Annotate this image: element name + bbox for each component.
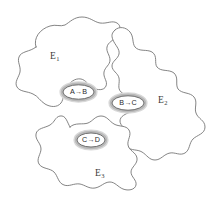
region-label-e2: E2 bbox=[158, 96, 167, 106]
region-label-e3-subscript: 3 bbox=[101, 172, 104, 179]
diagram-svg bbox=[0, 0, 218, 211]
region-label-e1-subscript: 1 bbox=[56, 55, 59, 62]
region-label-e2-subscript: 2 bbox=[164, 99, 167, 106]
node-label-b-to-c: B→C bbox=[119, 99, 136, 106]
node-label-c-to-d: C→D bbox=[82, 136, 100, 143]
node-label-a-to-b: A→B bbox=[70, 88, 87, 95]
region-label-e3: E3 bbox=[95, 169, 104, 179]
region-label-e1: E1 bbox=[50, 52, 59, 62]
diagram-canvas: E1 E2 E3 A→B B→C C→D bbox=[0, 0, 218, 211]
region-e3-outline bbox=[36, 116, 137, 190]
